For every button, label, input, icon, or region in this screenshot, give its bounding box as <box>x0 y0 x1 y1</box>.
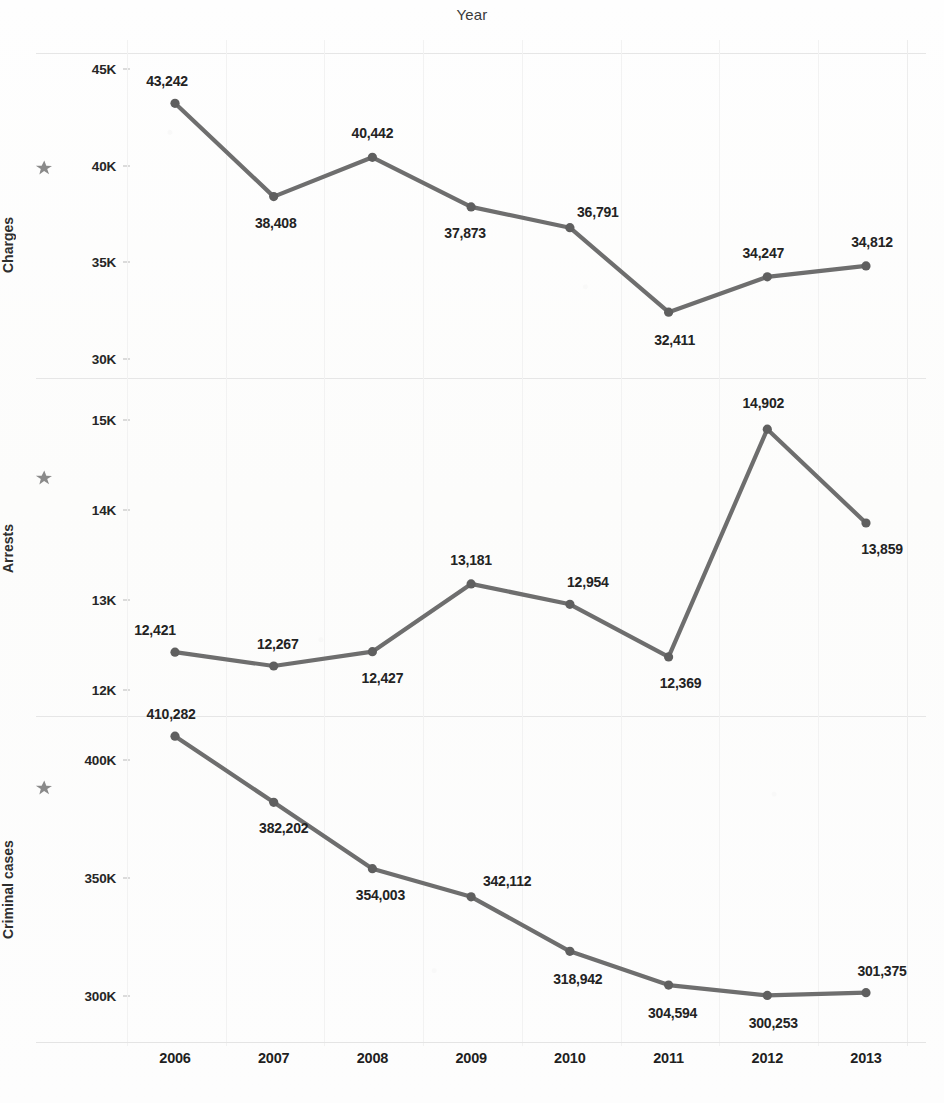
data-point-label: 37,873 <box>444 225 486 241</box>
data-point-label: 13,181 <box>450 552 492 568</box>
data-point-marker[interactable] <box>269 661 278 670</box>
x-axis: 20062007200820092010201120122013 <box>0 1040 944 1090</box>
chart-page: Year Charges 45K40K35K30K43,24238,40840,… <box>0 0 944 1103</box>
data-point-marker[interactable] <box>368 153 377 162</box>
data-point-marker[interactable] <box>467 579 476 588</box>
data-point-label: 40,442 <box>352 125 394 141</box>
x-tick-label-2012[interactable]: 2012 <box>752 1050 783 1066</box>
data-point-marker[interactable] <box>861 261 870 270</box>
data-point-label: 34,812 <box>851 234 893 250</box>
data-point-label: 301,375 <box>857 963 906 979</box>
data-point-marker[interactable] <box>170 732 179 741</box>
x-tick-label-2006[interactable]: 2006 <box>159 1050 190 1066</box>
data-point-marker[interactable] <box>565 223 574 232</box>
data-point-label: 34,247 <box>742 245 784 261</box>
x-tick-label-2013[interactable]: 2013 <box>850 1050 881 1066</box>
data-point-label: 12,421 <box>134 622 176 638</box>
panel-arrests: Arrests 15K14K13K12K12,42112,26712,42713… <box>0 378 944 716</box>
data-point-marker[interactable] <box>664 981 673 990</box>
data-point-label: 354,003 <box>356 887 405 903</box>
data-point-label: 300,253 <box>749 1015 798 1031</box>
data-point-label: 12,954 <box>567 574 609 590</box>
data-point-marker[interactable] <box>467 202 476 211</box>
panel-cases: Criminal cases 400K350K300K410,282382,20… <box>0 716 944 1046</box>
chart-title: Year <box>0 6 944 23</box>
data-point-marker[interactable] <box>664 652 673 661</box>
data-point-label: 304,594 <box>648 1005 697 1021</box>
series-line-criminal-cases <box>0 716 944 1046</box>
data-point-label: 12,427 <box>362 670 404 686</box>
data-point-marker[interactable] <box>467 892 476 901</box>
x-tick-label-2008[interactable]: 2008 <box>357 1050 388 1066</box>
series-path <box>175 736 866 995</box>
data-point-label: 32,411 <box>654 332 695 348</box>
data-point-label: 12,267 <box>257 636 299 652</box>
data-point-marker[interactable] <box>861 988 870 997</box>
data-point-marker[interactable] <box>368 647 377 656</box>
series-path <box>175 429 866 666</box>
data-point-marker[interactable] <box>861 518 870 527</box>
data-point-label: 382,202 <box>259 820 308 836</box>
data-point-label: 410,282 <box>146 706 195 722</box>
x-tick-label-2007[interactable]: 2007 <box>258 1050 289 1066</box>
x-tick-label-2011[interactable]: 2011 <box>653 1050 684 1066</box>
data-point-marker[interactable] <box>269 798 278 807</box>
data-point-marker[interactable] <box>565 947 574 956</box>
x-tick-label-2009[interactable]: 2009 <box>455 1050 486 1066</box>
data-point-label: 43,242 <box>146 73 188 89</box>
data-point-marker[interactable] <box>269 192 278 201</box>
data-point-marker[interactable] <box>763 425 772 434</box>
data-point-marker[interactable] <box>368 864 377 873</box>
data-point-marker[interactable] <box>565 600 574 609</box>
data-point-marker[interactable] <box>170 648 179 657</box>
data-point-marker[interactable] <box>763 272 772 281</box>
data-point-label: 36,791 <box>577 204 619 220</box>
x-tick-label-2010[interactable]: 2010 <box>554 1050 585 1066</box>
data-point-label: 318,942 <box>553 971 602 987</box>
x-axis-line <box>36 1042 926 1043</box>
series-line-arrests <box>0 378 944 718</box>
series-line-charges <box>0 40 944 388</box>
data-point-label: 13,859 <box>861 541 903 557</box>
data-point-label: 342,112 <box>483 873 531 889</box>
data-point-label: 14,902 <box>742 395 784 411</box>
data-point-marker[interactable] <box>664 308 673 317</box>
data-point-label: 38,408 <box>255 215 297 231</box>
data-point-label: 12,369 <box>660 675 702 691</box>
panel-charges: Charges 45K40K35K30K43,24238,40840,44237… <box>0 40 944 378</box>
data-point-marker[interactable] <box>763 991 772 1000</box>
series-path <box>175 103 866 312</box>
data-point-marker[interactable] <box>170 99 179 108</box>
